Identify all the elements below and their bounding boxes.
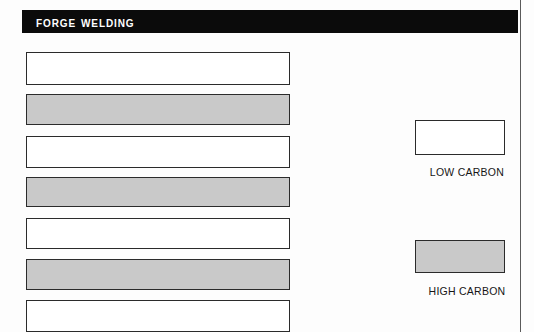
legend-label-high-carbon: HIGH CARBON <box>415 285 519 297</box>
chart-bar-5 <box>26 218 290 249</box>
legend-label-low-carbon: LOW CARBON <box>415 166 519 178</box>
chart-bar-6 <box>26 259 290 290</box>
chart-bar-3 <box>26 136 290 168</box>
chart-bar-7 <box>26 300 290 332</box>
chart-bar-2 <box>26 94 290 125</box>
chart-bar-4 <box>26 177 290 207</box>
document-page: Forge Welding LOW CARBON HIGH CARBON <box>0 0 534 332</box>
legend-swatch-low-carbon <box>415 120 505 155</box>
chart-bar-1 <box>26 52 290 85</box>
legend-swatch-high-carbon <box>415 240 505 273</box>
